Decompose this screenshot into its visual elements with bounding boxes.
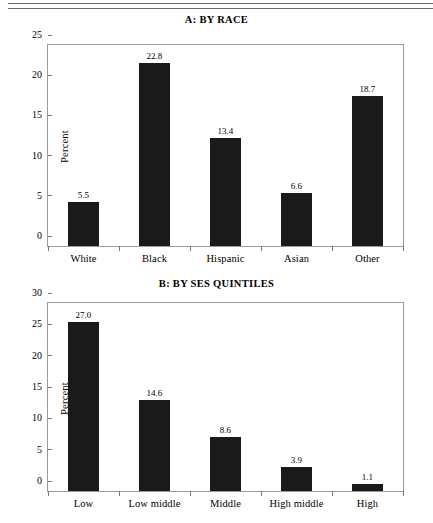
header-rule-bottom — [8, 8, 433, 9]
chart-a-bar: 22.8 — [139, 63, 170, 246]
chart-a-bar-slot: 6.6 — [261, 45, 332, 246]
chart-b-bar-value: 14.6 — [147, 389, 163, 398]
chart-b-y-tick: 30 — [32, 288, 48, 298]
chart-b-x-ticks — [48, 491, 403, 496]
chart-b-x-label: High — [332, 498, 403, 509]
chart-b-bar: 3.9 — [281, 467, 312, 491]
chart-a-x-tick-mark — [261, 246, 262, 251]
chart-a-x-tick-mark — [332, 246, 333, 251]
chart-b-title: B: BY SES QUINTILES — [0, 278, 433, 289]
chart-b-bars: 27.014.68.63.91.1 — [48, 303, 403, 491]
chart-b-x-tick-mark — [48, 491, 49, 496]
chart-b-x-axis-labels: LowLow middleMiddleHigh middleHigh — [48, 498, 403, 509]
chart-b-bar-value: 1.1 — [362, 473, 373, 482]
header-rule-top — [8, 3, 433, 4]
chart-b-x-label: Middle — [190, 498, 261, 509]
chart-b-x-label: Low middle — [119, 498, 190, 509]
chart-b-y-tick: 5 — [37, 445, 48, 455]
chart-a-x-axis-labels: WhiteBlackHispanicAsianOther — [48, 253, 403, 264]
chart-a-x-tick-mark — [48, 246, 49, 251]
chart-a-y-tick: 25 — [32, 30, 48, 40]
chart-a-bar-slot: 18.7 — [332, 45, 403, 246]
chart-a-x-label: Black — [119, 253, 190, 264]
chart-a-x-tick-mark — [403, 246, 404, 251]
chart-a-x-label: White — [48, 253, 119, 264]
chart-b-bar-slot: 1.1 — [332, 303, 403, 491]
chart-b-y-tick: 0 — [37, 476, 48, 486]
chart-b-x-label: High middle — [261, 498, 332, 509]
chart-b-bar-slot: 27.0 — [48, 303, 119, 491]
chart-b-bar: 8.6 — [210, 437, 241, 491]
chart-a-y-tick: 0 — [37, 231, 48, 241]
chart-a-y-tick: 15 — [32, 110, 48, 120]
chart-panel-b: B: BY SES QUINTILES Percent 051015202530… — [0, 278, 433, 523]
chart-a-bar-value: 18.7 — [360, 85, 376, 94]
chart-b-bar-slot: 8.6 — [190, 303, 261, 491]
chart-b-y-tick-mark — [48, 293, 52, 294]
chart-a-bar: 5.5 — [68, 202, 99, 246]
chart-b-x-tick-mark — [119, 491, 120, 496]
chart-b-bar-slot: 3.9 — [261, 303, 332, 491]
chart-a-y-tick: 10 — [32, 151, 48, 161]
chart-b-bar: 1.1 — [352, 484, 383, 491]
chart-b-y-tick: 10 — [32, 413, 48, 423]
chart-b-x-label: Low — [48, 498, 119, 509]
chart-a-bar-slot: 22.8 — [119, 45, 190, 246]
chart-a-bar-slot: 13.4 — [190, 45, 261, 246]
chart-a-bar-value: 5.5 — [78, 191, 89, 200]
header-double-rule — [8, 3, 433, 13]
chart-a-x-label: Hispanic — [190, 253, 261, 264]
chart-b-bar-value: 8.6 — [220, 426, 231, 435]
chart-a-x-label: Asian — [261, 253, 332, 264]
chart-a-bars: 5.522.813.46.618.7 — [48, 45, 403, 246]
chart-a-bar: 18.7 — [352, 96, 383, 246]
chart-a-bar: 6.6 — [281, 193, 312, 246]
chart-a-x-label: Other — [332, 253, 403, 264]
chart-b-x-tick-mark — [332, 491, 333, 496]
chart-b-y-tick: 20 — [32, 351, 48, 361]
chart-b-plot-area: Percent 051015202530 27.014.68.63.91.1 L… — [47, 302, 404, 492]
chart-a-x-ticks — [48, 246, 403, 251]
chart-b-bar-value: 27.0 — [76, 311, 92, 320]
chart-b-bar-slot: 14.6 — [119, 303, 190, 491]
chart-a-x-tick-mark — [119, 246, 120, 251]
chart-b-bar-value: 3.9 — [291, 456, 302, 465]
chart-b-y-tick: 15 — [32, 382, 48, 392]
chart-b-y-tick: 25 — [32, 319, 48, 329]
chart-a-title: A: BY RACE — [0, 14, 433, 25]
chart-a-bar: 13.4 — [210, 138, 241, 246]
chart-b-bar: 27.0 — [68, 322, 99, 491]
chart-b-bar: 14.6 — [139, 400, 170, 491]
chart-a-bar-value: 6.6 — [291, 182, 302, 191]
chart-b-x-tick-mark — [261, 491, 262, 496]
chart-a-bar-value: 22.8 — [147, 52, 163, 61]
chart-b-x-tick-mark — [190, 491, 191, 496]
chart-a-bar-slot: 5.5 — [48, 45, 119, 246]
chart-a-plot-area: Percent 0510152025 5.522.813.46.618.7 Wh… — [47, 44, 404, 247]
chart-a-x-tick-mark — [190, 246, 191, 251]
chart-a-y-tick: 5 — [37, 191, 48, 201]
chart-panel-a: A: BY RACE Percent 0510152025 5.522.813.… — [0, 14, 433, 274]
chart-a-y-tick-mark — [48, 35, 52, 36]
chart-a-y-tick: 20 — [32, 70, 48, 80]
chart-b-x-tick-mark — [403, 491, 404, 496]
chart-a-bar-value: 13.4 — [218, 127, 234, 136]
